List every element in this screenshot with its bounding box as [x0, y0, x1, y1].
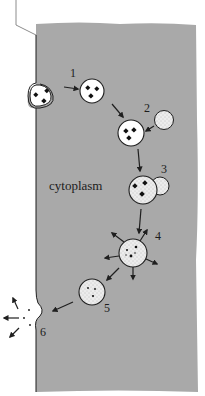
step-label-4: 4 [155, 229, 161, 243]
step-label-2: 2 [144, 101, 150, 115]
vesicle-with-particles [118, 120, 144, 146]
fused-vesicle [129, 176, 157, 204]
exocytosis-products [23, 309, 31, 326]
endocytic-vesicle [80, 79, 104, 103]
phagocytosis-diagram: 1 2 3 cytoplasm 4 [0, 0, 205, 396]
cytoplasm-label: cytoplasm [49, 178, 102, 193]
lysosome [155, 111, 174, 130]
step-label-3: 3 [161, 162, 167, 176]
step-label-5: 5 [104, 301, 110, 315]
exocytosis-arrows [4, 298, 19, 337]
callout-line [16, 0, 36, 35]
cytoplasm-region [28, 23, 198, 393]
step-label-1: 1 [70, 66, 76, 80]
step-label-6: 6 [40, 325, 46, 339]
residual-body [79, 279, 105, 305]
digesting-vesicle [119, 239, 147, 267]
